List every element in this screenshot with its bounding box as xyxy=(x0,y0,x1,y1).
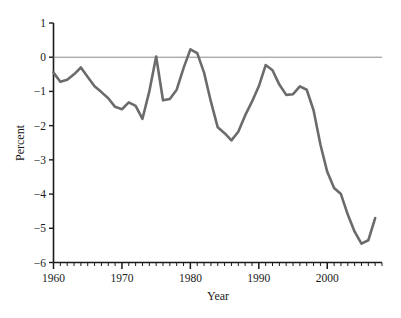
x-tick-label: 1980 xyxy=(179,272,202,284)
x-tick-label: 1990 xyxy=(247,272,270,284)
y-axis-title: Percent xyxy=(13,124,27,161)
y-tick-label: −5 xyxy=(34,222,46,234)
y-tick-label: 0 xyxy=(40,51,46,63)
line-chart: 10−1−2−3−4−5−6 Percent 19601970198019902… xyxy=(0,0,401,318)
y-tick-label: 1 xyxy=(40,17,46,29)
x-tick-label: 1970 xyxy=(110,272,133,284)
y-tick-label: −1 xyxy=(34,85,46,97)
x-tick-label: 2000 xyxy=(316,272,339,284)
x-tick-label: 1960 xyxy=(42,272,65,284)
y-tick-label: −4 xyxy=(34,188,46,200)
chart-container: 10−1−2−3−4−5−6 Percent 19601970198019902… xyxy=(0,0,401,318)
x-axis-title: Year xyxy=(207,289,229,303)
y-tick-label: −6 xyxy=(34,257,46,269)
y-tick-label: −2 xyxy=(34,120,46,132)
y-tick-label: −3 xyxy=(34,154,46,166)
chart-background xyxy=(0,0,401,318)
